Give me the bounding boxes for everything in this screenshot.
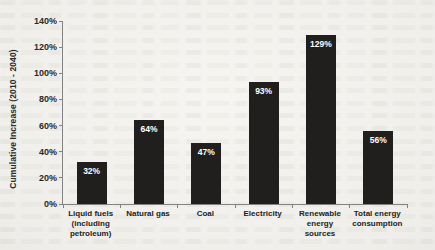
y-axis-tick-label: 20% bbox=[39, 173, 57, 183]
x-axis-tick-mark bbox=[120, 204, 121, 208]
y-axis-title: Cumulative Increase (2010 - 2040) bbox=[8, 24, 20, 214]
x-axis-category-label: Liquid fuels (including petroleum) bbox=[62, 209, 119, 239]
bar-chart: Cumulative Increase (2010 - 2040) 0%20%4… bbox=[0, 0, 435, 250]
bar: 129% bbox=[306, 35, 336, 204]
y-axis-tick-label: 80% bbox=[39, 94, 57, 104]
bar-value-label: 47% bbox=[191, 147, 221, 157]
x-axis-tick-mark bbox=[63, 204, 64, 208]
y-axis-tick-mark bbox=[59, 151, 63, 152]
plot-area: 0%20%40%60%80%100%120%140%32%64%47%93%12… bbox=[62, 21, 407, 205]
bar: 64% bbox=[134, 120, 164, 204]
x-axis-tick-mark bbox=[407, 204, 408, 208]
bar-value-label: 32% bbox=[77, 166, 107, 176]
y-axis-tick-mark bbox=[59, 47, 63, 48]
bar-value-label: 64% bbox=[134, 124, 164, 134]
bar-slot: 32% bbox=[63, 21, 120, 204]
y-axis-tick-label: 40% bbox=[39, 147, 57, 157]
bar: 32% bbox=[77, 162, 107, 204]
x-axis-tick-mark bbox=[235, 204, 236, 208]
x-axis-category-labels: Liquid fuels (including petroleum)Natura… bbox=[62, 209, 406, 239]
bar: 93% bbox=[249, 82, 279, 204]
x-axis-category-label: Total energy consumption bbox=[349, 209, 406, 239]
x-axis-tick-mark bbox=[292, 204, 293, 208]
bar-value-label: 93% bbox=[249, 86, 279, 96]
y-axis-tick-mark bbox=[59, 177, 63, 178]
y-axis-tick-label: 60% bbox=[39, 121, 57, 131]
bar-slot: 56% bbox=[350, 21, 407, 204]
x-axis-category-label: Renewable energy sources bbox=[291, 209, 348, 239]
x-axis-tick-mark bbox=[349, 204, 350, 208]
y-axis-tick-label: 140% bbox=[34, 16, 57, 26]
bar-slot: 64% bbox=[120, 21, 177, 204]
y-axis-tick-mark bbox=[59, 125, 63, 126]
y-axis-tick-label: 100% bbox=[34, 68, 57, 78]
y-axis-tick-label: 120% bbox=[34, 42, 57, 52]
y-axis-tick-mark bbox=[59, 21, 63, 22]
x-axis-category-label: Electricity bbox=[234, 209, 291, 239]
bar-slot: 93% bbox=[235, 21, 292, 204]
x-axis-category-label: Coal bbox=[177, 209, 234, 239]
bar: 56% bbox=[363, 131, 393, 204]
y-axis-tick-mark bbox=[59, 73, 63, 74]
bar-value-label: 56% bbox=[363, 135, 393, 145]
bar-value-label: 129% bbox=[306, 39, 336, 49]
scanned-page: Cumulative Increase (2010 - 2040) 0%20%4… bbox=[0, 0, 435, 250]
bar-slot: 129% bbox=[292, 21, 349, 204]
bar-slot: 47% bbox=[178, 21, 235, 204]
y-axis-tick-mark bbox=[59, 99, 63, 100]
bar: 47% bbox=[191, 143, 221, 204]
y-axis-tick-label: 0% bbox=[44, 199, 57, 209]
x-axis-tick-mark bbox=[177, 204, 178, 208]
x-axis-category-label: Natural gas bbox=[119, 209, 176, 239]
